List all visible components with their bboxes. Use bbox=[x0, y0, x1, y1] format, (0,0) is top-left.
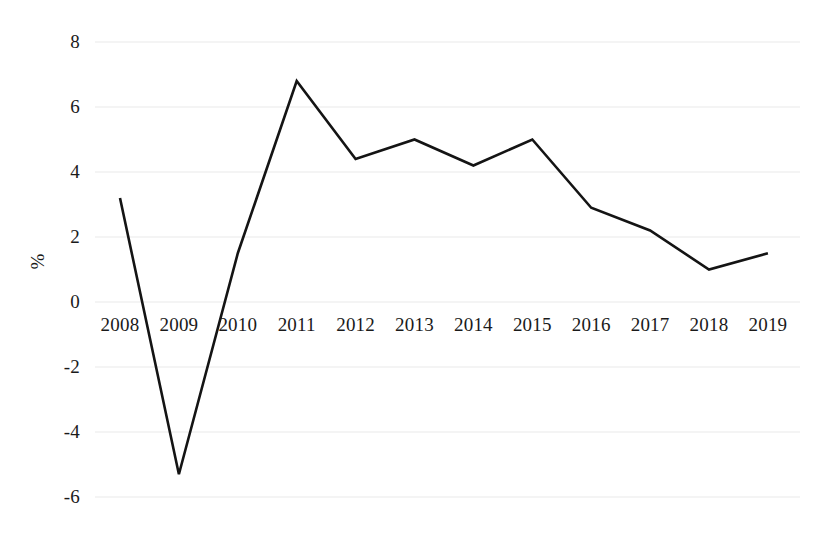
y-tick-label: -2 bbox=[38, 357, 80, 376]
x-tick-label: 2010 bbox=[209, 315, 267, 334]
x-tick-label: 2009 bbox=[150, 315, 208, 334]
y-tick-label: 2 bbox=[38, 227, 80, 246]
gridlines bbox=[95, 42, 800, 497]
line-chart: % 86420-2-4-6 20082009201020112012201320… bbox=[0, 0, 821, 540]
y-tick-label: -6 bbox=[38, 487, 80, 506]
x-tick-label: 2014 bbox=[444, 315, 502, 334]
x-tick-label: 2015 bbox=[503, 315, 561, 334]
series-polyline bbox=[120, 81, 768, 474]
y-tick-label: -4 bbox=[38, 422, 80, 441]
x-tick-label: 2017 bbox=[621, 315, 679, 334]
y-tick-label: 0 bbox=[38, 292, 80, 311]
y-tick-label: 6 bbox=[38, 97, 80, 116]
data-series-line bbox=[120, 81, 768, 474]
x-tick-label: 2019 bbox=[739, 315, 797, 334]
x-tick-label: 2008 bbox=[91, 315, 149, 334]
plot-area bbox=[0, 0, 821, 540]
x-tick-label: 2011 bbox=[268, 315, 326, 334]
y-tick-label: 4 bbox=[38, 162, 80, 181]
x-tick-label: 2013 bbox=[386, 315, 444, 334]
x-tick-label: 2016 bbox=[562, 315, 620, 334]
y-tick-label: 8 bbox=[38, 32, 80, 51]
x-tick-label: 2012 bbox=[327, 315, 385, 334]
x-tick-label: 2018 bbox=[680, 315, 738, 334]
